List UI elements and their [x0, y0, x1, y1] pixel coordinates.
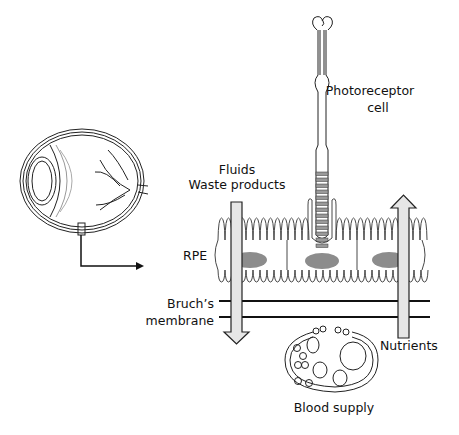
photoreceptor-disc [316, 208, 328, 212]
rpe-nucleus [305, 253, 339, 269]
blood-supply-label: Blood supply [294, 400, 375, 415]
photoreceptor-disc [316, 202, 328, 206]
photoreceptor-label: Photoreceptor [326, 83, 415, 98]
photoreceptor-disc [316, 214, 328, 218]
photoreceptor-disc [316, 184, 328, 188]
pointer-arrow [81, 235, 138, 266]
photoreceptor-label-2: cell [367, 100, 389, 115]
photoreceptor-disc [316, 178, 328, 182]
rpe-diagram: Photoreceptor cell Fluids Waste products… [0, 0, 459, 435]
rpe-apical-microvilli [336, 218, 427, 240]
photoreceptor-disc [316, 238, 328, 242]
bruch-label: Bruch’s [167, 296, 214, 311]
photoreceptor-disc [316, 196, 328, 200]
pointer-arrowhead [136, 262, 144, 270]
photoreceptor-disc [316, 190, 328, 194]
waste-products-label: Waste products [189, 177, 286, 192]
rpe-cell-boundary [422, 240, 425, 270]
photoreceptor-disc [316, 232, 328, 236]
rpe-label: RPE [183, 248, 207, 263]
rpe-cell-boundary [215, 240, 218, 270]
membrane-label: membrane [146, 313, 215, 328]
fluids-label: Fluids [219, 162, 256, 177]
rpe-basal-folds [218, 270, 428, 282]
eye-illustration [20, 129, 148, 235]
nutrients-label: Nutrients [380, 338, 438, 353]
photoreceptor-disc [316, 226, 328, 230]
photoreceptor-disc [316, 220, 328, 224]
photoreceptor-disc [316, 172, 328, 176]
photoreceptor-disc [316, 244, 328, 248]
blood-vessel [285, 326, 378, 392]
